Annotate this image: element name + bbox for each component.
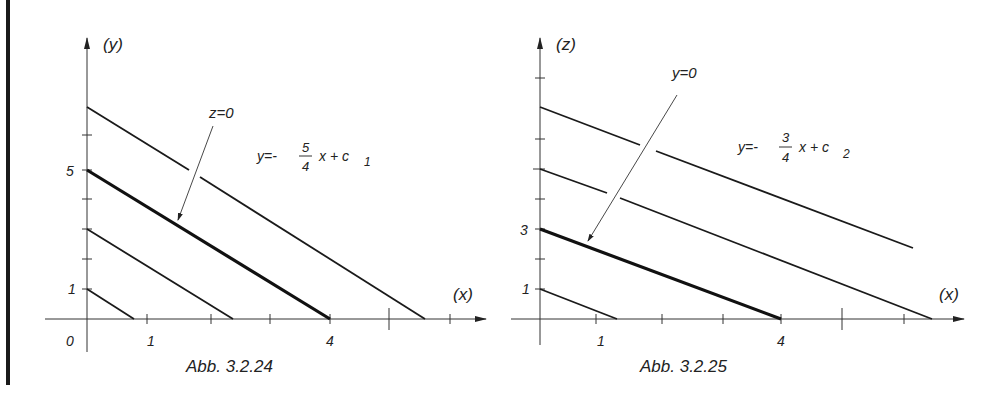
caption-left: Abb. 3.2.24 — [185, 357, 273, 376]
line-z0 — [87, 170, 330, 319]
x-axis-label: (x) — [939, 285, 959, 304]
svg-text:1: 1 — [364, 155, 371, 169]
leader-arrow-z0 — [178, 126, 213, 220]
line-y0 — [540, 229, 781, 319]
figure-left: (y) (x) 0 1 4 1 5 z=0 y=- 5 4 x + c 1 Ab… — [45, 35, 486, 376]
z-axis-label: (z) — [556, 35, 576, 54]
line-c1-3 — [87, 229, 233, 319]
x-axis-label: (x) — [453, 285, 473, 304]
y-tick-label-1: 1 — [68, 281, 76, 297]
line-c2-5 — [540, 169, 932, 319]
equation-right: y=- 3 4 x + c 2 — [737, 130, 850, 165]
equation-left: y=- 5 4 x + c 1 — [256, 140, 371, 174]
caption-right: Abb. 3.2.25 — [639, 357, 728, 376]
y-axis-label: (y) — [103, 35, 123, 54]
z-ticks — [533, 78, 545, 289]
svg-text:x + c: x + c — [798, 139, 829, 155]
leader-arrow-y0 — [588, 95, 677, 241]
figures-canvas: (y) (x) 0 1 4 1 5 z=0 y=- 5 4 x + c 1 Ab… — [0, 0, 996, 407]
x-tick-label-4: 4 — [777, 333, 785, 349]
svg-text:x + c: x + c — [318, 148, 349, 164]
x-tick-label-1: 1 — [147, 333, 155, 349]
svg-text:y=-: y=- — [737, 139, 758, 155]
line-c1-1 — [87, 289, 134, 319]
annotation-z0: z=0 — [208, 104, 234, 121]
line-c2-1 — [540, 289, 617, 319]
svg-text:y=-: y=- — [256, 148, 277, 164]
svg-text:5: 5 — [302, 140, 310, 155]
svg-text:3: 3 — [782, 130, 790, 145]
z-tick-label-1: 1 — [522, 281, 530, 297]
annotation-y0: y=0 — [671, 64, 697, 81]
z-tick-label-3: 3 — [520, 222, 528, 238]
line-c1-7 — [87, 107, 425, 319]
y-tick-label-5: 5 — [66, 163, 74, 179]
figure-right: (z) (x) 1 4 1 3 y=0 y=- 3 4 x + c 2 Abb.… — [511, 35, 964, 376]
svg-text:2: 2 — [842, 147, 850, 161]
svg-text:4: 4 — [302, 159, 309, 174]
line-c2-7 — [540, 107, 913, 248]
x-tick-label-4: 4 — [326, 333, 334, 349]
svg-text:4: 4 — [782, 150, 789, 165]
x-tick-label-1: 1 — [597, 333, 605, 349]
origin-label: 0 — [66, 333, 74, 349]
